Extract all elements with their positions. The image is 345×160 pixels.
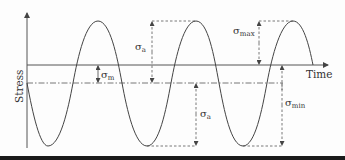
sigma-m-label: σm (101, 69, 115, 82)
x-axis-label: Time (306, 68, 333, 80)
y-axis-label: Stress (13, 70, 25, 103)
sigma-max-label: σmax (233, 25, 255, 38)
sigma-a-lower-label: σa (200, 108, 211, 121)
stress-cycle-diagram: Stress Time σm σa σa σmax σmin (0, 0, 345, 160)
sigma-a-upper-label: σa (135, 41, 146, 54)
diagram-svg: Stress Time σm σa σa σmax σmin (0, 0, 345, 160)
sigma-min-label: σmin (285, 97, 306, 110)
stress-curve (27, 21, 313, 146)
bottom-border-bar (0, 156, 345, 160)
